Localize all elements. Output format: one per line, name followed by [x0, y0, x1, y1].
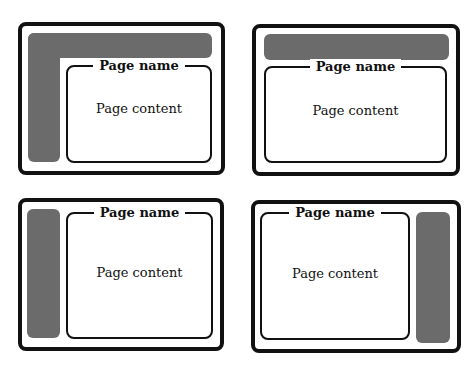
page-content-label: Page content: [68, 101, 210, 116]
layout-top-left-nav: Page name Page content: [18, 22, 225, 175]
top-navigation-bar: [264, 34, 449, 60]
page-content-label: Page content: [262, 266, 408, 281]
content-area: Page name Page content: [264, 66, 447, 163]
layout-left-nav: Page name Page content: [18, 198, 224, 351]
layout-right-nav: Page name Page content: [251, 200, 461, 353]
page-name-label: Page name: [289, 205, 381, 220]
right-navigation-bar: [416, 212, 450, 343]
page-content-label: Page content: [266, 103, 445, 118]
layout-top-nav: Page name Page content: [252, 24, 460, 176]
left-navigation-bar: [28, 33, 60, 162]
page-content-label: Page content: [68, 265, 211, 280]
content-area: Page name Page content: [260, 212, 410, 340]
page-name-label: Page name: [310, 59, 402, 74]
page-name-label: Page name: [93, 58, 185, 73]
content-area: Page name Page content: [66, 212, 213, 339]
content-area: Page name Page content: [66, 65, 212, 163]
left-navigation-bar: [27, 209, 60, 338]
page-name-label: Page name: [94, 205, 186, 220]
